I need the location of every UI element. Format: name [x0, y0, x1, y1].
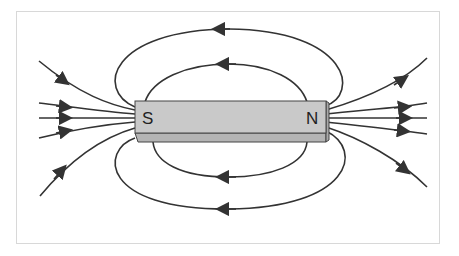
magnet-side-face — [135, 133, 326, 142]
north-pole-label: N — [306, 109, 318, 128]
left-line-4 — [39, 122, 135, 138]
right-line-5 — [326, 127, 427, 187]
left-line-1 — [39, 61, 135, 110]
right-line-1 — [326, 58, 427, 110]
top-outer-loop — [229, 29, 343, 106]
top-inner-loop — [229, 64, 307, 102]
bar-magnet: S N — [135, 101, 329, 142]
left-line-5 — [40, 128, 135, 196]
bottom-outer-loop — [229, 131, 345, 209]
magnet-top-face — [135, 101, 326, 133]
left-line-2 — [39, 103, 135, 114]
bottom-inner-loop — [229, 142, 307, 177]
magnetic-field-diagram: S N — [0, 0, 459, 256]
south-pole-label: S — [142, 109, 153, 128]
